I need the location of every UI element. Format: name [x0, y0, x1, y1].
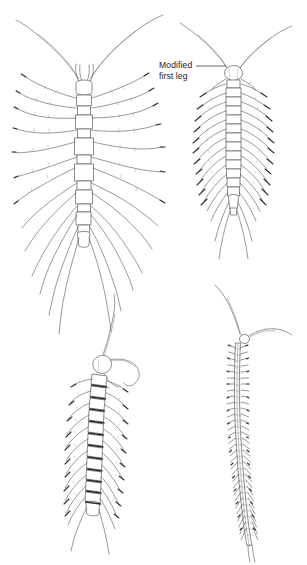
illustration-plate: .ln { fill:none; stroke:#55555a; stroke-… — [0, 0, 307, 565]
specimen-bottom-right-group — [215, 285, 292, 562]
label-modified-first-leg: Modified first leg — [159, 60, 192, 81]
label-line-1: Modified — [159, 60, 192, 71]
centipede-line-art: .ln { fill:none; stroke:#55555a; stroke-… — [0, 0, 307, 565]
specimen-top-left-group — [12, 15, 165, 334]
specimen-bottom-left-group — [64, 294, 139, 554]
specimen-top-right-group — [180, 23, 292, 259]
label-line-2: first leg — [159, 71, 192, 82]
